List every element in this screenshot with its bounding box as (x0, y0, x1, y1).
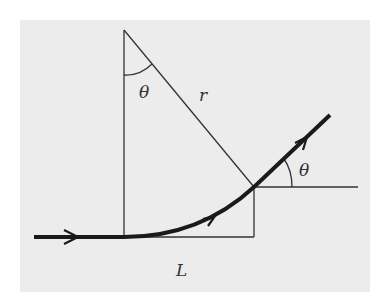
theta-arc-top (124, 64, 152, 75)
particle-trajectory (34, 115, 330, 237)
width-label: L (175, 260, 187, 280)
theta-arc-exit (284, 159, 292, 187)
radius-line (124, 30, 254, 187)
theta-label-top: θ (139, 82, 149, 102)
theta-label-exit: θ (299, 160, 309, 180)
diagram-canvas: θ r θ L (0, 0, 389, 304)
radius-label: r (199, 85, 208, 105)
